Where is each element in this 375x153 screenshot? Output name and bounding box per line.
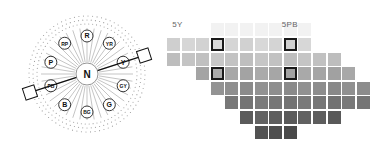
munsell-chroma-value-grid: 5Y5PB bbox=[0, 0, 375, 153]
grid-cell bbox=[328, 111, 341, 124]
grid-cell bbox=[255, 67, 268, 80]
grid-cell bbox=[225, 96, 238, 109]
grid-cell bbox=[269, 96, 282, 109]
grid-cell bbox=[225, 67, 238, 80]
grid-cell bbox=[269, 126, 282, 139]
grid-cell bbox=[269, 53, 282, 66]
grid-cell bbox=[313, 53, 326, 66]
grid-cell bbox=[284, 96, 297, 109]
column-label-5y: 5Y bbox=[172, 20, 182, 29]
grid-cell bbox=[211, 53, 224, 66]
grid-cell bbox=[269, 111, 282, 124]
grid-cell bbox=[255, 96, 268, 109]
grid-cell bbox=[313, 67, 326, 80]
grid-cell bbox=[357, 82, 370, 95]
grid-cell bbox=[255, 53, 268, 66]
grid-cell bbox=[255, 38, 268, 51]
grid-cell bbox=[328, 67, 341, 80]
grid-cell bbox=[240, 96, 253, 109]
grid-cell-faint bbox=[211, 23, 224, 36]
grid-cell bbox=[284, 126, 297, 139]
grid-cell bbox=[284, 111, 297, 124]
grid-cell bbox=[357, 96, 370, 109]
grid-cell bbox=[284, 53, 297, 66]
grid-cell bbox=[240, 38, 253, 51]
grid-cell bbox=[269, 67, 282, 80]
grid-cell-highlighted bbox=[284, 67, 297, 80]
grid-cell bbox=[342, 96, 355, 109]
grid-cell bbox=[342, 82, 355, 95]
grid-cell-faint bbox=[225, 23, 238, 36]
grid-cell bbox=[298, 67, 311, 80]
grid-cell bbox=[182, 53, 195, 66]
grid-cell bbox=[225, 53, 238, 66]
grid-cell bbox=[298, 111, 311, 124]
grid-cell bbox=[328, 96, 341, 109]
grid-cell-faint bbox=[240, 23, 253, 36]
grid-cell bbox=[328, 82, 341, 95]
grid-cell bbox=[255, 82, 268, 95]
grid-cell bbox=[225, 82, 238, 95]
grid-cell bbox=[240, 67, 253, 80]
grid-cell bbox=[255, 111, 268, 124]
grid-cell bbox=[240, 111, 253, 124]
grid-cell bbox=[313, 111, 326, 124]
grid-cell bbox=[298, 53, 311, 66]
grid-cell bbox=[313, 82, 326, 95]
grid-cell bbox=[298, 38, 311, 51]
grid-cell bbox=[196, 38, 209, 51]
grid-cell bbox=[255, 126, 268, 139]
grid-cell bbox=[313, 96, 326, 109]
grid-cell bbox=[342, 67, 355, 80]
grid-cell bbox=[269, 38, 282, 51]
grid-cell bbox=[225, 38, 238, 51]
grid-cell-faint bbox=[255, 23, 268, 36]
grid-cell bbox=[196, 53, 209, 66]
grid-cell-highlighted bbox=[211, 38, 224, 51]
grid-cell bbox=[167, 53, 180, 66]
grid-cell bbox=[328, 53, 341, 66]
column-label-5pb: 5PB bbox=[282, 20, 298, 29]
grid-cell bbox=[182, 38, 195, 51]
grid-cell-highlighted bbox=[284, 38, 297, 51]
grid-cell-faint bbox=[298, 23, 311, 36]
grid-cell bbox=[196, 67, 209, 80]
grid-cell bbox=[240, 82, 253, 95]
grid-cell bbox=[269, 82, 282, 95]
grid-cell bbox=[240, 53, 253, 66]
grid-cell-faint bbox=[269, 23, 282, 36]
grid-cell bbox=[211, 82, 224, 95]
grid-cell bbox=[284, 82, 297, 95]
grid-cell-highlighted bbox=[211, 67, 224, 80]
grid-cell bbox=[298, 82, 311, 95]
grid-cell bbox=[298, 96, 311, 109]
grid-cell bbox=[167, 38, 180, 51]
